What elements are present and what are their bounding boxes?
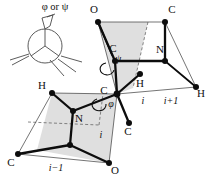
atom-dot-c-alpha-center: [114, 91, 121, 98]
label-index-i-lower: i: [100, 129, 103, 140]
newman-rear-bond-right-2: [58, 59, 76, 72]
label-c-upper-right: C: [168, 3, 175, 15]
atom-dot-c-upper-right: [162, 19, 168, 25]
peptide-dihedral-figure: O C C N H H C C H N C O ψ φ i i+1 i i−1: [0, 0, 215, 181]
newman-front-bond-lower-right: [45, 46, 59, 56]
figure-canvas: O C C N H H C C H N C O ψ φ i i+1 i i−1: [0, 0, 215, 181]
newman-rear-bond-left-2: [12, 56, 29, 65]
newman-front-bond-lower-left: [31, 46, 45, 56]
atom-dot-n-upper: [162, 58, 168, 64]
label-psi-angle: ψ: [115, 53, 122, 64]
label-phi-angle: φ: [108, 98, 114, 109]
plane-upper-right-edge: [165, 22, 196, 87]
label-n-upper: N: [156, 43, 164, 55]
newman-rotation-arrowhead: [47, 14, 55, 17]
atom-dot-c-lower-left: [15, 151, 21, 157]
label-h-right: H: [197, 87, 205, 99]
label-o-lower: O: [111, 164, 119, 176]
label-c-side: C: [124, 125, 131, 137]
label-n-lower: N: [75, 112, 83, 124]
bond-calpha-to-c-side: [117, 94, 129, 123]
newman-rear-bond-right: [61, 56, 82, 62]
label-o-upper: O: [90, 3, 98, 15]
atom-dot-h-left: [49, 90, 55, 96]
atom-dot-c-lower-mid: [67, 142, 73, 148]
newman-caption: φ or ψ: [42, 1, 69, 12]
label-c-alpha-center: C: [100, 84, 107, 96]
atom-dot-o-upper: [95, 19, 101, 25]
label-c-lower-left: C: [7, 156, 14, 168]
label-h-left: H: [38, 79, 46, 91]
label-index-i-plus-1: i+1: [164, 95, 179, 106]
peptide-plane-lower-fill: [37, 93, 117, 163]
label-index-i-upper: i: [142, 95, 145, 106]
label-h-center: H: [136, 77, 144, 89]
newman-projection-inset: φ or ψ: [10, 1, 82, 76]
bond-n-to-h-right: [165, 61, 196, 87]
label-index-i-minus-1: i−1: [49, 162, 64, 173]
newman-rear-bond-down: [50, 60, 64, 76]
